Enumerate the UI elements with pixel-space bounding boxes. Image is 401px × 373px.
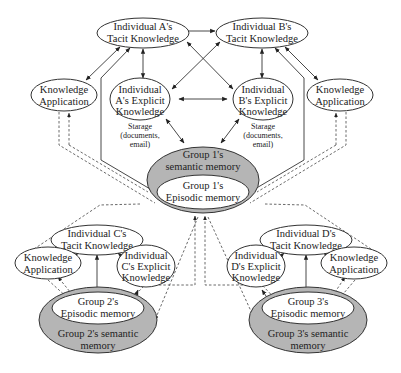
svg-text:Knowledge: Knowledge: [24, 252, 73, 263]
svg-text:Individual C's: Individual C's: [68, 228, 127, 239]
svg-text:Group 1's: Group 1's: [183, 180, 224, 191]
svg-text:Application: Application: [39, 96, 89, 107]
arrow-a-explicit-group1: [166, 119, 184, 143]
svg-text:email): email): [130, 140, 151, 149]
svg-text:Group 3's semantic: Group 3's semantic: [268, 328, 349, 339]
node-group2-memory: Group 2's Episodic memory Group 2's sema…: [39, 287, 157, 353]
svg-text:Knowledge: Knowledge: [330, 252, 379, 263]
svg-text:Individual: Individual: [241, 84, 284, 95]
svg-text:Episodic memory: Episodic memory: [61, 308, 136, 319]
knowledge-memory-diagram: Individual A's Tacit Knowledge Individua…: [0, 0, 401, 373]
svg-text:Individual D's: Individual D's: [276, 228, 335, 239]
node-individual-d-explicit: Individual D's Explicit Knowledge: [227, 245, 285, 287]
svg-text:Starage: Starage: [251, 122, 275, 131]
svg-text:Application: Application: [23, 264, 73, 275]
node-group1-memory: Group 1's semantic memory Group 1's Epis…: [147, 147, 259, 213]
svg-text:Tacit Knowledge: Tacit Knowledge: [270, 240, 342, 251]
svg-text:Group 2's: Group 2's: [78, 296, 119, 307]
svg-text:Knowledge: Knowledge: [232, 272, 281, 283]
svg-text:Tacit Knowledge: Tacit Knowledge: [61, 240, 133, 251]
svg-text:memory: memory: [81, 340, 117, 351]
svg-text:Episodic memory: Episodic memory: [271, 308, 346, 319]
arrow-b-tacit-a-explicit: [172, 42, 220, 89]
dash-app-right-group1-b: [257, 145, 336, 192]
node-knowledge-application-c: Knowledge Application: [15, 247, 81, 279]
node-individual-a-tacit: Individual A's Tacit Knowledge: [97, 18, 189, 48]
svg-text:C's Explicit: C's Explicit: [122, 261, 171, 272]
svg-text:Tacit Knowledge: Tacit Knowledge: [107, 33, 179, 44]
svg-text:B's Explicit: B's Explicit: [239, 95, 288, 106]
node-knowledge-application-left: Knowledge Application: [31, 79, 97, 111]
svg-text:Application: Application: [329, 264, 379, 275]
svg-text:Individual: Individual: [234, 250, 277, 261]
node-individual-c-explicit: Individual C's Explicit Knowledge: [117, 245, 175, 287]
svg-text:Group 3's: Group 3's: [288, 296, 329, 307]
label-storage-right: Starage (documents, email): [243, 122, 282, 149]
svg-text:Knowledge: Knowledge: [116, 106, 165, 117]
svg-text:Knowledge: Knowledge: [40, 84, 89, 95]
svg-text:Knowledge: Knowledge: [316, 84, 365, 95]
svg-text:Group 2's semantic: Group 2's semantic: [58, 328, 139, 339]
svg-text:Individual A's: Individual A's: [114, 21, 173, 32]
svg-text:Tacit Knowledge: Tacit Knowledge: [226, 33, 298, 44]
svg-text:(documents,: (documents,: [120, 131, 159, 140]
svg-text:Starage: Starage: [128, 122, 152, 131]
svg-text:Individual: Individual: [124, 250, 167, 261]
dash-app-left-group1-b: [69, 145, 148, 192]
svg-text:Application: Application: [315, 96, 365, 107]
svg-text:A's Explicit: A's Explicit: [115, 95, 165, 106]
svg-text:semantic memory: semantic memory: [166, 161, 242, 172]
svg-text:Episodic memory: Episodic memory: [166, 192, 241, 203]
svg-text:Knowledge: Knowledge: [239, 106, 288, 117]
svg-text:D's Explicit: D's Explicit: [231, 261, 281, 272]
arrow-b-explicit-group1: [221, 119, 239, 143]
node-group3-memory: Group 3's Episodic memory Group 3's sema…: [249, 287, 367, 353]
svg-text:Knowledge: Knowledge: [122, 272, 171, 283]
node-knowledge-application-right: Knowledge Application: [307, 79, 373, 111]
svg-text:Group 1's: Group 1's: [183, 149, 224, 160]
arrow-a-tacit-b-explicit: [187, 42, 233, 89]
svg-text:(documents,: (documents,: [243, 131, 282, 140]
node-individual-b-explicit: Individual B's Explicit Knowledge: [233, 78, 293, 120]
node-knowledge-application-d: Knowledge Application: [321, 247, 387, 279]
svg-text:email): email): [253, 140, 274, 149]
node-individual-b-tacit: Individual B's Tacit Knowledge: [216, 18, 308, 48]
svg-text:Individual: Individual: [118, 84, 161, 95]
label-storage-left: Starage (documents, email): [120, 122, 159, 149]
svg-text:Individual B's: Individual B's: [233, 21, 292, 32]
node-individual-a-explicit: Individual A's Explicit Knowledge: [110, 78, 170, 120]
svg-text:memory: memory: [291, 340, 327, 351]
